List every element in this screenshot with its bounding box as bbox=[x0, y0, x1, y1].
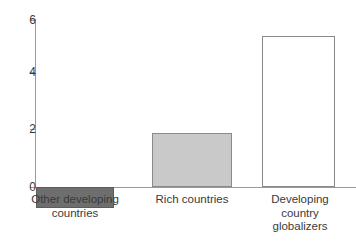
category-label-other-developing-countries: Other developing countries bbox=[16, 193, 134, 220]
bar-rich-countries bbox=[152, 133, 232, 187]
category-label-developing-country-globalizers: Developing country globalizers bbox=[244, 193, 356, 234]
y-tick-label-0: 0 bbox=[10, 181, 36, 193]
y-tick-label-4: 4 bbox=[10, 66, 36, 78]
y-tick-group-4: 4 bbox=[0, 72, 36, 73]
bar-chart: 6 4 2 0 Other developing countries Rich … bbox=[0, 0, 356, 242]
y-tick-label-6: 6 bbox=[10, 14, 36, 26]
y-tick-group-2: 2 bbox=[0, 129, 36, 130]
y-axis-line bbox=[35, 19, 36, 188]
y-tick-label-2: 2 bbox=[10, 123, 36, 135]
bar-developing-country-globalizers bbox=[262, 36, 335, 187]
y-tick-group-6: 6 bbox=[0, 20, 36, 21]
y-tick-group-0: 0 bbox=[0, 187, 36, 188]
category-label-rich-countries: Rich countries bbox=[140, 193, 244, 207]
